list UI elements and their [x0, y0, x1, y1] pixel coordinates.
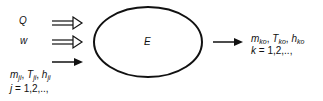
heat-double-arrow-icon — [52, 17, 82, 29]
outlet-arrow-icon — [213, 38, 243, 46]
work-label: w — [20, 36, 27, 46]
heat-label: Q — [19, 16, 27, 26]
inlet-stream-label: mji, Tji, hji — [10, 70, 51, 83]
inlet-arrow-icon — [52, 58, 83, 66]
work-double-arrow-icon — [52, 36, 82, 48]
outlet-index-label: k = 1,2,.., — [251, 46, 292, 56]
inlet-index-label: j = 1,2,.., — [10, 84, 49, 94]
system-energy-label: E — [144, 37, 151, 47]
